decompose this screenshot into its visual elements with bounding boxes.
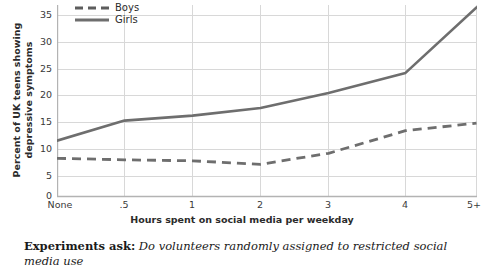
y-tick-10: 10 <box>34 144 52 154</box>
vertical-gridlines <box>58 5 477 196</box>
x-tick-3: 3 <box>325 199 331 210</box>
y-tick-35: 35 <box>34 10 52 20</box>
chart-legend: Boys Girls <box>74 2 166 26</box>
y-tick-30: 30 <box>34 37 52 47</box>
chart-figure: Percent of UK teens showing depressive s… <box>0 0 484 232</box>
y-axis-title-line1: Percent of UK teens showing <box>11 23 22 178</box>
series-line-girls <box>57 8 477 141</box>
y-axis-tick-labels: 35 30 25 20 15 10 5 0 <box>30 0 52 200</box>
caption-lead: Experiments ask: <box>24 239 135 253</box>
x-tick-5plus: 5+ <box>467 199 481 210</box>
x-tick-1: 1 <box>189 199 195 210</box>
y-tick-20: 20 <box>34 90 52 100</box>
y-tick-25: 25 <box>34 64 52 74</box>
y-tick-15: 15 <box>34 117 52 127</box>
legend-label-girls: Girls <box>110 14 138 26</box>
legend-item-girls: Girls <box>74 14 166 26</box>
x-tick-none: None <box>48 199 73 210</box>
legend-swatch-solid-icon <box>74 14 110 26</box>
y-tick-5: 5 <box>34 171 52 181</box>
x-tick-4: 4 <box>402 199 408 210</box>
plot-area <box>57 5 477 196</box>
series-line-boys <box>57 123 477 164</box>
legend-label-boys: Boys <box>110 2 139 14</box>
chart-svg <box>57 5 477 201</box>
x-tick-half: .5 <box>119 199 128 210</box>
x-axis-title: Hours spent on social media per weekday <box>0 214 484 225</box>
legend-swatch-dashed-icon <box>74 2 110 14</box>
x-axis-tick-labels: None .5 1 2 3 4 5+ <box>0 199 484 215</box>
legend-item-boys: Boys <box>74 2 166 14</box>
x-tick-2: 2 <box>257 199 263 210</box>
figure-caption: Experiments ask: Do volunteers randomly … <box>24 239 470 269</box>
horizontal-gridlines <box>57 16 477 177</box>
